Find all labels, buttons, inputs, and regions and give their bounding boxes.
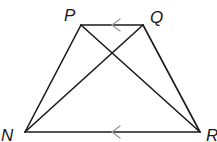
- segment-np: [25, 25, 81, 132]
- label-n: N: [1, 126, 14, 142]
- diagonal-pr: [81, 25, 200, 132]
- label-q: Q: [150, 8, 163, 27]
- label-r: R: [206, 126, 217, 142]
- diagonal-qn: [25, 25, 143, 132]
- trapezoid-diagram: P Q N R: [0, 0, 217, 142]
- label-p: P: [64, 6, 76, 25]
- diagram-canvas: P Q N R: [0, 0, 217, 142]
- segment-qr: [143, 25, 200, 132]
